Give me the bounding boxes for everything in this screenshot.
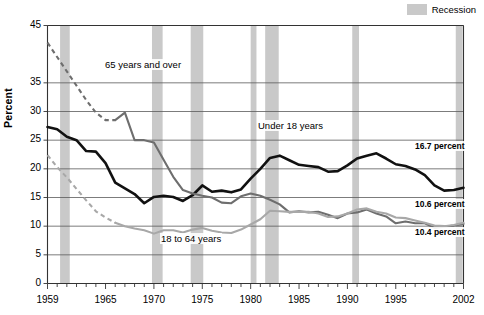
poverty-rate-chart: Recession Percent 0510152025303545 19591… [0,0,484,315]
series-line-solid [115,208,463,233]
y-tick-label: 25 [19,133,41,144]
series-label-adults: 18 to 64 years [160,233,222,244]
series-line-dashed [48,43,116,120]
x-tick-label: 2002 [452,294,474,305]
y-tick-label: 15 [19,191,41,202]
x-tick-label: 1995 [385,294,407,305]
plot-area [0,0,484,315]
end-label-under18: 16.7 percent [414,141,466,151]
x-tick-label: 1965 [94,294,116,305]
x-tick-label: 1959 [36,294,58,305]
y-tick-label: 0 [19,277,41,288]
y-tick-label: 35 [19,76,41,87]
recession-band [191,26,204,284]
x-tick-label: 1980 [240,294,262,305]
x-tick-label: 1970 [143,294,165,305]
end-label-over65: 10.4 percent [414,227,466,237]
x-tick-label: 1975 [191,294,213,305]
series-line-dashed [48,155,116,223]
x-tick-label: 1985 [288,294,310,305]
legend-label-recession: Recession [432,5,476,15]
recession-band [265,26,279,284]
recession-band [456,26,463,284]
y-axis-title: Percent [2,88,14,128]
y-tick-label: 45 [19,19,41,30]
series-label-over65: 65 years and over [104,59,182,70]
x-tick-label: 1990 [336,294,358,305]
series-label-under18: Under 18 years [257,120,324,131]
chart-legend: Recession [407,4,476,15]
y-tick-label: 10 [19,219,41,230]
recession-swatch-icon [407,4,427,15]
end-label-adults: 10.6 percent [414,199,466,209]
y-tick-label: 5 [19,248,41,259]
recession-band [251,26,257,284]
recession-band [352,26,359,284]
y-tick-label: 30 [19,105,41,116]
y-tick-label: 20 [19,162,41,173]
